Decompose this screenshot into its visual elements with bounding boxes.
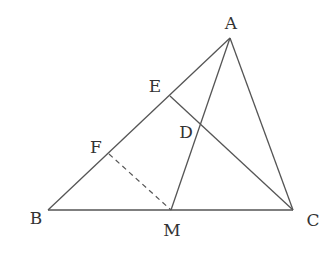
- point-label-c: C: [306, 210, 319, 230]
- point-label-m: M: [163, 220, 180, 240]
- segment-ab: [48, 38, 230, 210]
- point-label-e: E: [149, 76, 161, 96]
- point-label-a: A: [224, 13, 238, 33]
- segment-ec: [170, 96, 293, 210]
- segment-fm: [109, 154, 171, 210]
- segment-ac: [230, 38, 293, 210]
- geometry-diagram: ABCMEDF: [0, 0, 336, 257]
- point-label-f: F: [90, 137, 102, 157]
- point-label-d: D: [179, 122, 193, 142]
- point-label-b: B: [30, 208, 43, 228]
